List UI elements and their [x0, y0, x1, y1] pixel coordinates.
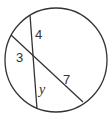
- intersecting-chords-diagram: 4 3 y 7: [0, 0, 111, 118]
- segment-label-top: 4: [35, 27, 42, 42]
- chord-diagonal: [11, 35, 83, 102]
- segment-label-right: 7: [63, 72, 70, 87]
- segment-label-bottom: y: [37, 82, 46, 97]
- segment-label-left: 3: [16, 50, 23, 65]
